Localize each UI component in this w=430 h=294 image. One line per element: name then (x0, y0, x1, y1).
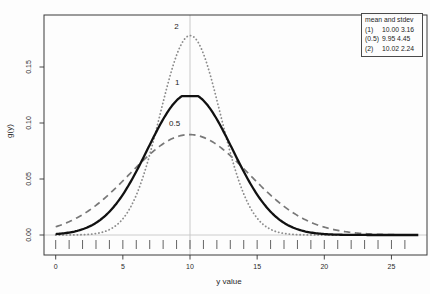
series-2-label: 2 (174, 22, 179, 31)
legend-entry-value: 9.95 4.45 (382, 35, 410, 42)
legend-entries: (1)10.00 3.16(0.5)9.95 4.45(2)10.02 2.24 (365, 25, 420, 54)
x-tick-label: 20 (320, 263, 328, 270)
y-tick-label: 0.05 (25, 172, 32, 186)
series-1-curve (56, 96, 419, 235)
legend-title: mean and stdev (365, 15, 420, 25)
x-tick-label: 10 (186, 263, 194, 270)
legend-entry-value: 10.02 2.24 (382, 45, 414, 52)
legend-entry-key: (0.5) (365, 34, 382, 44)
series-2-curve (56, 36, 419, 235)
series-0.5-curve (56, 135, 419, 235)
x-axis-title: y value (216, 277, 242, 286)
x-tick-label: 15 (253, 263, 261, 270)
density-comparison-figure: 05101520250.000.050.100.150.521y value g… (0, 0, 430, 294)
y-tick-label: 0.00 (25, 228, 32, 242)
legend-entry: (2)10.02 2.24 (365, 44, 420, 54)
legend-entry-value: 10.00 3.16 (382, 26, 414, 33)
y-tick-label: 0.15 (25, 60, 32, 74)
y-tick-label: 0.10 (25, 116, 32, 130)
series-1-label: 1 (175, 78, 180, 87)
x-tick-label: 25 (388, 263, 396, 270)
legend-entry-key: (2) (365, 44, 382, 54)
legend-entry: (0.5)9.95 4.45 (365, 34, 420, 44)
legend-entry: (1)10.00 3.16 (365, 25, 420, 35)
legend: mean and stdev (1)10.00 3.16(0.5)9.95 4.… (361, 13, 423, 57)
series-0.5-label: 0.5 (169, 119, 181, 128)
x-tick-label: 5 (121, 263, 125, 270)
x-tick-label: 0 (54, 263, 58, 270)
legend-entry-key: (1) (365, 25, 382, 35)
y-axis-title: g(y) (5, 124, 14, 138)
